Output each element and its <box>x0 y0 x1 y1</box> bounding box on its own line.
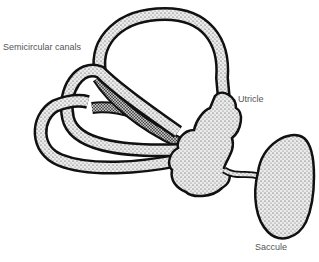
posterior-canal-inner <box>92 78 178 142</box>
label-utricle: Utricle <box>238 95 264 104</box>
label-saccule: Saccule <box>255 243 287 252</box>
vestibular-diagram: Semicircular canals Utricle Saccule <box>0 0 319 262</box>
utricle <box>169 93 241 196</box>
utriculosaccular-duct <box>224 170 258 176</box>
saccule <box>255 135 314 238</box>
vestibular-illustration <box>0 0 319 262</box>
label-semicircular-canals: Semicircular canals <box>3 43 81 52</box>
